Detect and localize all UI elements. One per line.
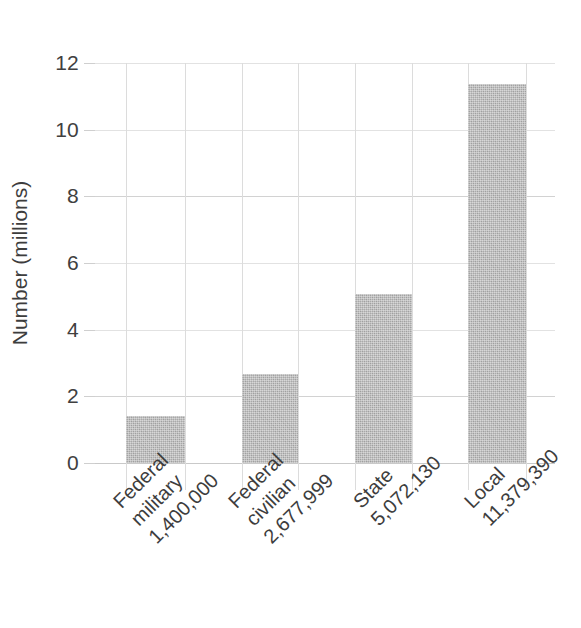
tick-y-10 xyxy=(84,130,95,131)
bar-state[interactable] xyxy=(355,294,412,463)
gridline-x-4 xyxy=(298,63,299,490)
y-axis-label-2: 2 xyxy=(67,384,79,408)
tick-y-8 xyxy=(84,196,95,197)
y-axis-label-0: 0 xyxy=(67,451,79,475)
gridline-x-8 xyxy=(526,63,527,490)
gridline-x-6 xyxy=(412,63,413,490)
y-axis-label-12: 12 xyxy=(55,51,79,75)
bar-local[interactable] xyxy=(468,84,526,463)
tick-y-6 xyxy=(84,263,95,264)
tick-y-2 xyxy=(84,396,95,397)
plot-area: 12 10 8 6 4 2 0 xyxy=(95,63,555,463)
y-axis-label-6: 6 xyxy=(67,251,79,275)
tick-y-12 xyxy=(84,63,95,64)
bar-chart: Number (millions) 12 10 8 6 4 2 0 xyxy=(0,0,581,628)
y-axis-label-8: 8 xyxy=(67,184,79,208)
y-axis-title: Number (millions) xyxy=(8,181,32,346)
gridline-x-2 xyxy=(185,63,186,490)
y-axis-label-4: 4 xyxy=(67,318,79,342)
tick-y-4 xyxy=(84,330,95,331)
y-axis-label-10: 10 xyxy=(55,118,79,142)
gridline-y-12 xyxy=(95,63,555,64)
tick-y-0 xyxy=(84,463,95,464)
